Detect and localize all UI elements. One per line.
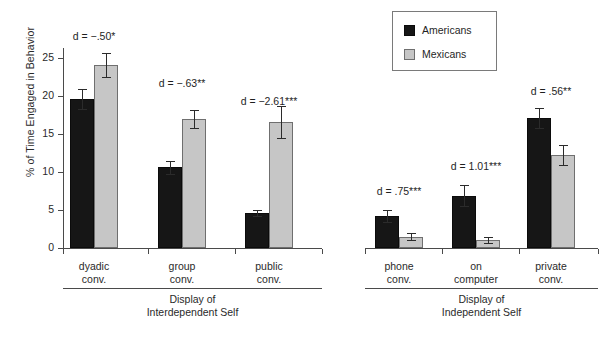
x-category-label-line1: private	[503, 260, 599, 273]
plot-area: % of Time Engaged in Behavior 0510152025…	[0, 0, 614, 340]
legend: Americans Mexicans	[392, 11, 497, 71]
y-tick-mark	[58, 210, 63, 211]
y-tick-mark	[58, 96, 63, 97]
x-tick-mark	[148, 249, 149, 254]
bar-public-conv--americans	[245, 213, 269, 248]
bar-dyadic-conv--americans	[70, 99, 94, 248]
x-category-label-line2: conv.	[46, 273, 142, 286]
legend-swatch-americans	[404, 25, 415, 36]
legend-item-mexicans: Mexicans	[404, 48, 466, 60]
error-bar	[257, 210, 258, 217]
error-bar-cap-bottom	[102, 77, 111, 78]
x-tick-mark	[442, 249, 443, 254]
error-bar-cap-top	[190, 110, 199, 111]
bar-group-conv--mexicans	[182, 119, 206, 248]
effect-size-label: d = 1.01***	[416, 160, 536, 172]
y-tick-mark	[58, 58, 63, 59]
panel-label: Display ofIndependent Self	[392, 293, 572, 319]
x-category-label-line1: group	[134, 260, 230, 273]
error-bar	[539, 108, 540, 128]
error-bar-cap-bottom	[460, 206, 469, 207]
error-bar-cap-bottom	[484, 243, 493, 244]
y-tick-label: 25	[32, 51, 54, 63]
effect-size-label: d = −2.61***	[209, 95, 329, 107]
error-bar	[281, 106, 282, 138]
panel-label: Display ofInterdependent Self	[103, 293, 283, 319]
error-bar-cap-bottom	[166, 174, 175, 175]
error-bar	[82, 89, 83, 109]
bar-private-conv--mexicans	[551, 155, 575, 248]
error-bar-cap-bottom	[253, 216, 262, 217]
error-bar-cap-bottom	[383, 222, 392, 223]
legend-swatch-mexicans	[404, 49, 415, 60]
error-bar-cap-top	[166, 161, 175, 162]
x-axis-line	[63, 248, 322, 249]
x-category-label-line2: conv.	[134, 273, 230, 286]
error-bar-cap-top	[484, 237, 493, 238]
error-bar	[411, 233, 412, 240]
error-bar	[170, 161, 171, 175]
y-tick-label: 10	[32, 165, 54, 177]
x-category-label: dyadicconv.	[46, 260, 142, 286]
panel-label-line2: Interdependent Self	[103, 306, 283, 319]
effect-size-label: d = −.50*	[34, 30, 154, 42]
y-tick-label: 15	[32, 127, 54, 139]
x-tick-mark	[365, 249, 366, 254]
x-tick-mark	[598, 249, 599, 254]
error-bar	[464, 185, 465, 206]
x-category-label: groupconv.	[134, 260, 230, 286]
bar-group-conv--americans	[158, 167, 182, 248]
bar-public-conv--mexicans	[269, 122, 293, 248]
error-bar-cap-bottom	[78, 109, 87, 110]
error-bar-cap-bottom	[407, 240, 416, 241]
x-tick-mark	[63, 249, 64, 254]
panel-rule	[63, 288, 322, 289]
x-category-label: publicconv.	[221, 260, 317, 286]
y-axis-line	[63, 48, 64, 248]
y-tick-label: 5	[32, 203, 54, 215]
error-bar-cap-bottom	[190, 128, 199, 129]
effect-size-label: d = −.63**	[122, 77, 242, 89]
error-bar-cap-bottom	[277, 138, 286, 139]
panel-label-line1: Display of	[392, 293, 572, 306]
y-tick-mark	[58, 172, 63, 173]
panel-label-line2: Independent Self	[392, 306, 572, 319]
x-tick-mark	[519, 249, 520, 254]
error-bar	[387, 210, 388, 221]
error-bar-cap-top	[78, 89, 87, 90]
error-bar	[563, 145, 564, 165]
x-category-label-line2: conv.	[503, 273, 599, 286]
error-bar-cap-top	[407, 233, 416, 234]
bar-private-conv--americans	[527, 118, 551, 248]
error-bar-cap-top	[383, 210, 392, 211]
error-bar-cap-bottom	[535, 128, 544, 129]
bar-dyadic-conv--mexicans	[94, 65, 118, 248]
y-tick-label: 20	[32, 89, 54, 101]
panel-label-line1: Display of	[103, 293, 283, 306]
x-category-label-line2: conv.	[221, 273, 317, 286]
figure-bar-chart: % of Time Engaged in Behavior 0510152025…	[0, 0, 614, 340]
error-bar-cap-top	[460, 185, 469, 186]
x-category-label: privateconv.	[503, 260, 599, 286]
effect-size-label: d = .75***	[339, 185, 459, 197]
x-category-label-line1: dyadic	[46, 260, 142, 273]
y-tick-mark	[58, 134, 63, 135]
x-tick-mark	[235, 249, 236, 254]
error-bar-cap-bottom	[559, 165, 568, 166]
error-bar-cap-top	[253, 210, 262, 211]
x-axis-line	[365, 248, 598, 249]
error-bar-cap-top	[535, 108, 544, 109]
legend-label-americans: Americans	[422, 24, 472, 36]
error-bar	[194, 110, 195, 128]
x-tick-mark	[322, 249, 323, 254]
legend-item-americans: Americans	[404, 24, 472, 36]
legend-label-mexicans: Mexicans	[422, 48, 466, 60]
effect-size-label: d = .56**	[491, 85, 611, 97]
x-category-label-line1: public	[221, 260, 317, 273]
error-bar-cap-top	[559, 145, 568, 146]
error-bar-cap-top	[102, 53, 111, 54]
panel-rule	[365, 288, 598, 289]
error-bar	[106, 53, 107, 77]
y-tick-label: 0	[32, 241, 54, 253]
